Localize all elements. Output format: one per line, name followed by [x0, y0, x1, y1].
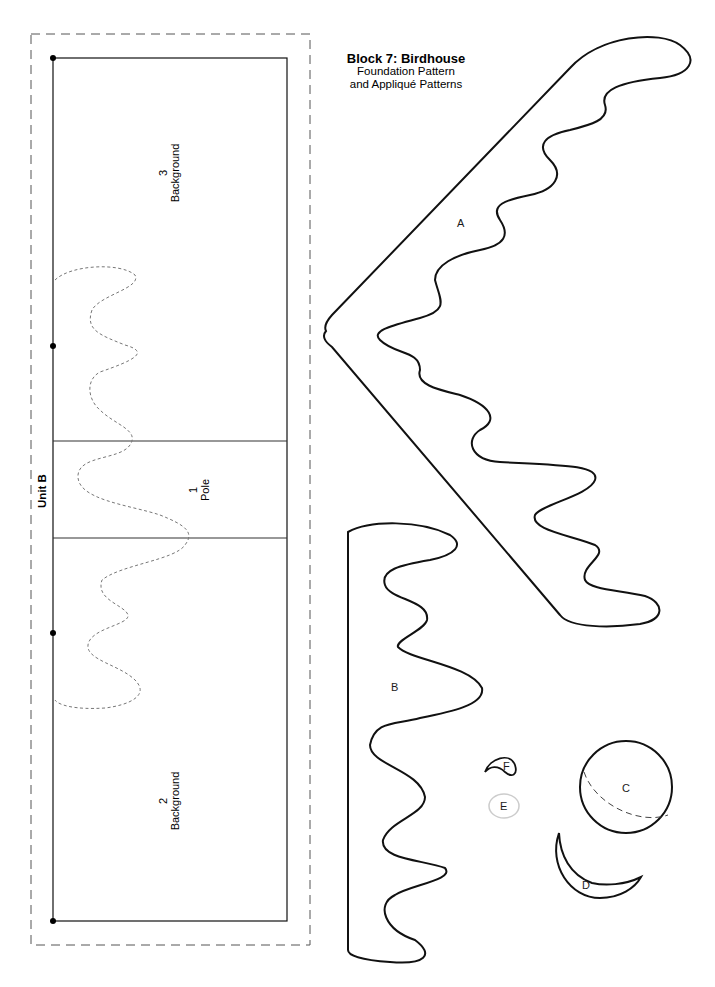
section-1-label: 1 Pole — [187, 470, 213, 510]
applique-piece-d — [556, 833, 641, 898]
piece-label-f: F — [503, 760, 510, 772]
registration-dot — [50, 55, 56, 61]
applique-piece-b — [348, 523, 482, 962]
section-3-label: 3 Background — [157, 143, 183, 203]
piece-label-a: A — [457, 217, 464, 229]
section-number: 1 — [187, 470, 199, 510]
piece-label-b: B — [391, 681, 398, 693]
unit-label: Unit B — [36, 466, 50, 516]
subtitle-line-2: and Appliqué Patterns — [336, 78, 476, 91]
applique-piece-a — [324, 37, 690, 626]
placement-guide-wave — [55, 267, 189, 709]
applique-piece-c-placement-line — [584, 772, 668, 818]
block-title: Block 7: Birdhouse — [336, 52, 476, 65]
section-name: Pole — [199, 470, 211, 510]
section-name: Background — [169, 143, 181, 203]
piece-label-c: C — [622, 782, 630, 794]
registration-dot — [50, 343, 56, 349]
section-number: 2 — [157, 771, 169, 831]
piece-label-e: E — [500, 800, 507, 812]
registration-dot — [50, 918, 56, 924]
section-name: Background — [169, 771, 181, 831]
pattern-canvas — [0, 0, 715, 987]
section-2-label: 2 Background — [157, 771, 183, 831]
subtitle-line-1: Foundation Pattern — [336, 65, 476, 78]
piece-label-d: D — [582, 879, 590, 891]
section-number: 3 — [157, 143, 169, 203]
registration-dot — [50, 630, 56, 636]
pattern-title: Block 7: Birdhouse Foundation Pattern an… — [336, 52, 476, 91]
applique-piece-f — [485, 758, 516, 775]
